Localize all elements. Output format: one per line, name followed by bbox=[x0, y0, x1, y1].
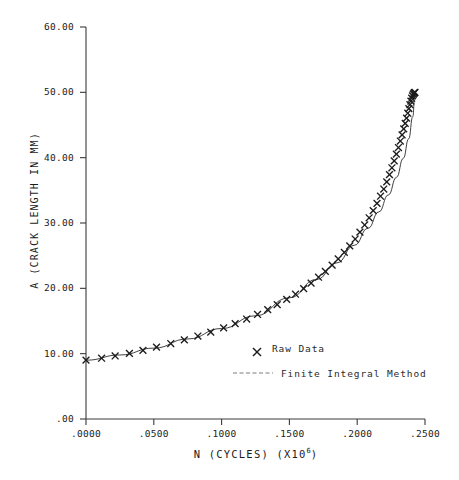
raw-data-point bbox=[374, 200, 381, 207]
raw-data-markers bbox=[83, 89, 419, 364]
raw-data-point bbox=[361, 222, 368, 229]
raw-data-point bbox=[370, 207, 377, 214]
raw-data-point bbox=[283, 296, 290, 303]
fatigue-crack-growth-chart: .0010.0020.0030.0040.0050.0060.00 .0000.… bbox=[0, 0, 459, 480]
raw-data-point bbox=[393, 151, 400, 158]
x-tick-label: .2000 bbox=[327, 428, 387, 439]
raw-data-point bbox=[153, 344, 160, 351]
y-tick-label: .00 bbox=[0, 413, 74, 424]
raw-data-point bbox=[254, 311, 261, 318]
raw-data-point bbox=[167, 340, 174, 347]
x-axis-title: N (CYCLES) (X106) bbox=[86, 447, 426, 460]
raw-data-point bbox=[400, 126, 407, 133]
raw-data-point bbox=[380, 186, 387, 193]
raw-data-point bbox=[389, 164, 396, 171]
x-tick-label: .0500 bbox=[124, 428, 184, 439]
y-axis-title: A (CRACK LENGTH IN MM) bbox=[29, 101, 40, 321]
x-axis-tick-marks bbox=[86, 419, 425, 425]
raw-data-point bbox=[377, 193, 384, 200]
raw-data-point bbox=[391, 158, 398, 165]
x-tick-label: .2500 bbox=[395, 428, 455, 439]
y-tick-label: 60.00 bbox=[0, 21, 74, 32]
raw-data-point bbox=[243, 316, 250, 323]
y-tick-label: 50.00 bbox=[0, 86, 74, 97]
axes bbox=[86, 27, 425, 419]
raw-data-point bbox=[352, 236, 359, 243]
x-tick-label: .1500 bbox=[259, 428, 319, 439]
raw-data-point bbox=[395, 144, 402, 151]
x-axis-title-main: N (CYCLES) (X10 bbox=[194, 448, 307, 460]
raw-data-point bbox=[329, 262, 336, 269]
x-axis-title-tail: ) bbox=[311, 448, 319, 460]
x-tick-label: .0000 bbox=[56, 428, 116, 439]
legend-label-finite-integral-method: Finite Integral Method bbox=[281, 368, 427, 379]
raw-data-point bbox=[403, 115, 410, 122]
raw-data-point bbox=[399, 131, 406, 138]
raw-data-point bbox=[397, 138, 404, 145]
raw-data-point bbox=[335, 256, 342, 263]
legend-x-marker-icon bbox=[253, 348, 261, 356]
x-tick-label: .1000 bbox=[192, 428, 252, 439]
raw-data-point bbox=[112, 353, 119, 360]
legend-symbols bbox=[233, 348, 273, 373]
raw-data-point bbox=[232, 320, 239, 327]
raw-data-point bbox=[366, 214, 373, 221]
raw-data-point bbox=[357, 229, 364, 236]
legend-label-raw-data: Raw Data bbox=[272, 343, 325, 354]
raw-data-point bbox=[383, 178, 390, 185]
raw-data-point bbox=[386, 171, 393, 178]
raw-data-point bbox=[300, 285, 307, 292]
y-tick-label: 10.00 bbox=[0, 348, 74, 359]
plot-canvas bbox=[0, 0, 459, 480]
